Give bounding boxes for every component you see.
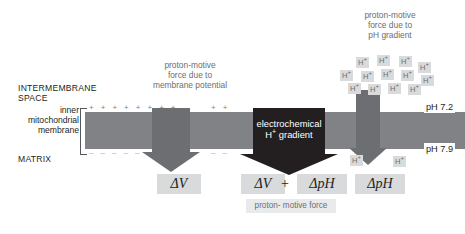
inner-membrane-label: inner mitochondrial membrane — [1, 105, 79, 135]
arrow-head — [240, 154, 338, 175]
caption-ph-gradient: proton-motive force due to pH gradient — [340, 10, 440, 40]
membrane-charges-bottom-mid: _ _ — [211, 146, 229, 154]
proton-ion: H+ — [350, 155, 363, 166]
proton-ion: H+ — [377, 55, 390, 66]
arrow-shaft — [152, 108, 190, 152]
proton-ion: H+ — [418, 62, 431, 73]
arrow-head — [142, 152, 200, 172]
echem-line2: H+ gradient — [265, 129, 312, 140]
proton-ion: H+ — [401, 70, 414, 81]
proton-ion: H+ — [399, 56, 412, 67]
matrix-label: MATRIX — [18, 155, 51, 165]
membrane-charges-top-mid: + + — [211, 104, 230, 112]
proton-ion: H+ — [348, 83, 361, 94]
formula-delta-ph-2: ΔpH — [355, 174, 405, 194]
proton-ion: H+ — [408, 84, 421, 95]
ph-bottom-label: pH 7.9 — [424, 143, 455, 155]
proton-ion: H+ — [421, 75, 434, 86]
arrow-shaft — [356, 90, 380, 148]
proton-motive-force-caption: proton- motive force — [246, 199, 336, 213]
proton-ion: H+ — [361, 71, 374, 82]
echem-line1: electrochemical — [256, 118, 321, 129]
formula-plus-sign: + — [281, 176, 289, 192]
caption-membrane-potential: proton-motive force due to membrane pote… — [134, 60, 246, 90]
formula-delta-v: ΔV — [157, 174, 201, 194]
formula-delta-ph: ΔpH — [297, 174, 347, 194]
arrow-membrane-potential — [152, 108, 190, 166]
proton-ion: H+ — [393, 156, 406, 167]
proton-ion: H+ — [381, 69, 394, 80]
membrane-bracket — [80, 108, 87, 155]
proton-ion: H+ — [356, 57, 369, 68]
intermembrane-space-label: INTERMEMBRANE SPACE — [18, 84, 97, 103]
diagram-canvas: INTERMEMBRANE SPACE inner mitochondrial … — [0, 0, 465, 234]
proton-ion: H+ — [368, 84, 381, 95]
formula-delta-v-2: ΔV — [241, 174, 285, 194]
proton-ion: H+ — [340, 70, 353, 81]
electrochemical-gradient-label: electrochemical H+ gradient — [243, 118, 335, 141]
proton-ion: H+ — [388, 83, 401, 94]
ph-top-label: pH 7.2 — [424, 101, 455, 113]
